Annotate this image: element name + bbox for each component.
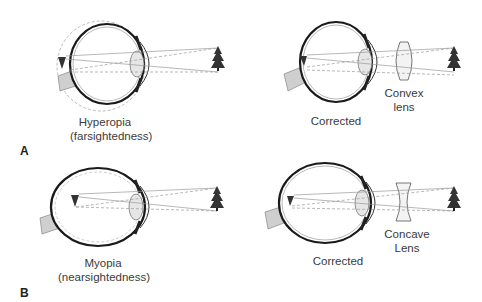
- panel-letter-a: A: [20, 144, 29, 158]
- hyperopia-eye: [57, 21, 225, 111]
- hyperopia-label: Hyperopia (farsightedness): [70, 115, 140, 143]
- myopia-label: Myopia (nearsightedness): [58, 256, 148, 284]
- condition-name: Myopia: [58, 256, 148, 270]
- hyperopia-corrected-eye: [284, 22, 461, 102]
- concave-lens-label: Concave Lens: [380, 227, 434, 255]
- convex-lens-label: Convex lens: [380, 86, 428, 114]
- myopia-eye: [40, 168, 224, 246]
- inverted-triangle-image-icon: [58, 57, 66, 69]
- tree-icon: [211, 46, 225, 71]
- corrected-label-b: Corrected: [308, 254, 368, 268]
- concave-lens: [396, 183, 411, 221]
- corrected-label-a: Corrected: [306, 114, 366, 128]
- condition-subname: (nearsightedness): [58, 270, 148, 284]
- tree-icon: [447, 186, 461, 211]
- condition-subname: (farsightedness): [70, 129, 140, 143]
- tree-icon: [447, 46, 461, 71]
- condition-name: Hyperopia: [70, 115, 140, 129]
- convex-lens: [396, 42, 412, 80]
- panel-letter-b: B: [20, 286, 29, 300]
- tree-icon: [210, 186, 224, 211]
